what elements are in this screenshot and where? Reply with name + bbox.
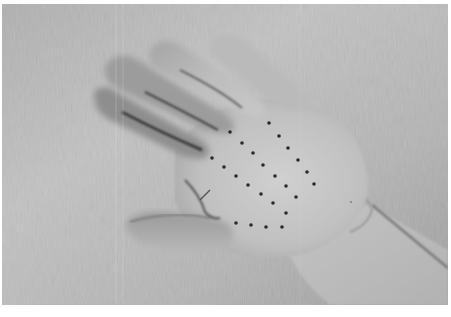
palm-dot — [210, 156, 214, 160]
palm-dot — [234, 221, 238, 225]
hand-photo-canvas — [2, 4, 448, 305]
palm-dot — [246, 183, 250, 187]
small-skin-mark — [350, 201, 352, 203]
palm-dot — [240, 141, 244, 145]
palm-dot — [249, 223, 253, 227]
hand-photo: Grayscale photograph of an open left han… — [2, 4, 448, 305]
palm-dot — [271, 201, 275, 205]
palm-dot — [294, 195, 298, 199]
palm-dot — [261, 163, 265, 167]
palm-dot — [259, 192, 263, 196]
palm-dot — [222, 165, 226, 169]
palm-dot — [284, 211, 288, 215]
palm-dot — [280, 225, 284, 229]
palm-dot — [286, 146, 290, 150]
palm-dot — [305, 170, 309, 174]
palm-dot — [251, 151, 255, 155]
palm-dot — [267, 121, 271, 125]
palm-dot — [284, 184, 288, 188]
palm-dot — [264, 225, 268, 229]
palm-dot — [277, 134, 281, 138]
palm-dot — [234, 174, 238, 178]
palm-dot — [312, 182, 316, 186]
palm-dot — [228, 130, 232, 134]
palm-dot — [273, 174, 277, 178]
palm-dot — [296, 158, 300, 162]
